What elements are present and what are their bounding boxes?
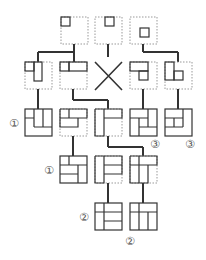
node-f [130, 62, 157, 89]
cross-mark-icon [95, 62, 122, 90]
connector-j [108, 136, 143, 156]
node-h-complete [25, 109, 52, 136]
node-n [95, 156, 122, 183]
node-root-b [95, 17, 122, 44]
connector-a [38, 44, 74, 62]
label-2b: ② [125, 235, 135, 248]
connector-c [143, 44, 178, 62]
node-l-complete [165, 109, 192, 136]
label-2a: ② [79, 211, 89, 224]
label-1a: ① [9, 117, 19, 130]
tiling-tree-diagram: .dot { fill: none; stroke: #999; stroke-… [0, 0, 206, 260]
node-k-complete [130, 109, 157, 136]
node-o [130, 156, 157, 183]
node-p-complete [95, 203, 122, 230]
node-i [60, 109, 87, 136]
node-d [25, 62, 52, 89]
node-e [60, 62, 87, 89]
node-j [95, 109, 122, 136]
node-m-complete [60, 156, 87, 183]
connector-e [73, 89, 108, 109]
label-3b: ③ [185, 138, 195, 151]
node-root-c [130, 17, 157, 44]
label-1b: ① [44, 164, 54, 177]
node-q-complete [130, 203, 157, 230]
node-root-a [61, 17, 88, 44]
node-g [165, 62, 192, 89]
label-3a: ③ [150, 138, 160, 151]
